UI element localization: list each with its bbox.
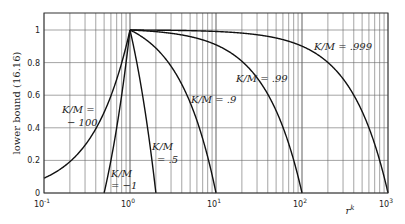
series-label: K/M bbox=[151, 141, 174, 152]
series-label: = −1 bbox=[111, 180, 137, 191]
series-label: = .5 bbox=[157, 154, 178, 165]
x-axis-label: rk bbox=[345, 204, 354, 216]
y-tick-label: 0.2 bbox=[27, 156, 40, 165]
series-label: K/M bbox=[110, 168, 133, 179]
x-tick-label: 103 bbox=[379, 197, 393, 209]
series-label: K/M = .999 bbox=[313, 41, 373, 52]
y-axis-ticks: 00.20.40.60.81 bbox=[27, 26, 40, 198]
series-label: K/M = .9 bbox=[190, 94, 237, 105]
series-line bbox=[130, 30, 156, 193]
x-tick-label: 102 bbox=[293, 197, 307, 209]
x-axis-ticks: 10-1100101102103 bbox=[34, 197, 393, 209]
y-axis-label: lower bound (16.16) bbox=[11, 51, 22, 154]
y-tick-label: 0.6 bbox=[27, 91, 40, 100]
series-line bbox=[130, 30, 216, 193]
x-tick-label: 10-1 bbox=[34, 197, 50, 209]
y-tick-label: 0 bbox=[35, 189, 40, 198]
chart: 00.20.40.60.81 10-1100101102103 K/M =− 1… bbox=[0, 0, 405, 224]
series-label: − 100 bbox=[67, 117, 98, 128]
y-tick-label: 0.8 bbox=[27, 59, 40, 68]
series-labels: K/M =− 100K/M= −1K/M= .5K/M = .9K/M = .9… bbox=[61, 41, 373, 191]
series-label: K/M = bbox=[61, 104, 95, 115]
y-tick-label: 1 bbox=[35, 26, 40, 35]
x-tick-label: 101 bbox=[207, 197, 221, 209]
x-tick-label: 100 bbox=[121, 197, 135, 209]
y-tick-label: 0.4 bbox=[27, 124, 40, 133]
series-label: K/M = .99 bbox=[235, 73, 288, 84]
series-line bbox=[130, 30, 388, 193]
